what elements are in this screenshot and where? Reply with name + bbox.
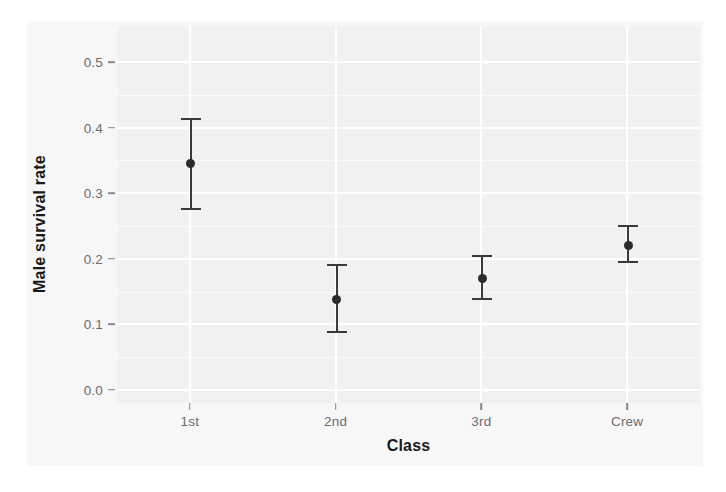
gridline-minor-horizontal [117, 160, 700, 161]
x-tick-label: 1st [181, 414, 200, 429]
error-bar-cap-lower [618, 261, 638, 263]
y-tick-label: 0.4 [84, 120, 103, 135]
error-bar-cap-upper [618, 225, 638, 227]
x-tick-mark [626, 403, 628, 410]
gridline-major-horizontal [117, 323, 700, 325]
y-tick-label: 0.3 [84, 186, 103, 201]
gridline-major-vertical [335, 26, 337, 403]
x-axis-title: Class [117, 437, 700, 455]
y-tick-mark [108, 192, 115, 194]
y-tick-mark [108, 61, 115, 63]
y-axis-title: Male survival rate [31, 124, 49, 324]
y-tick-mark [108, 258, 115, 260]
gridline-minor-horizontal [117, 357, 700, 358]
error-bar-cap-lower [181, 208, 201, 210]
gridline-major-vertical [626, 26, 628, 403]
data-point[interactable] [478, 274, 487, 283]
gridline-minor-horizontal [117, 292, 700, 293]
x-tick-mark [335, 403, 337, 410]
x-tick-label: Crew [611, 414, 643, 429]
x-tick-label: 3rd [471, 414, 491, 429]
gridline-major-vertical [189, 26, 191, 403]
error-bar-cap-upper [327, 264, 347, 266]
data-point[interactable] [186, 159, 195, 168]
gridline-major-vertical [480, 26, 482, 403]
x-tick-label: 2nd [324, 414, 347, 429]
y-tick-label: 0.5 [84, 55, 103, 70]
error-bar-cap-lower [327, 331, 347, 333]
error-bar-cap-lower [472, 298, 492, 300]
gridline-major-horizontal [117, 127, 700, 129]
error-bar-cap-upper [472, 255, 492, 257]
y-tick-mark [108, 127, 115, 129]
gridline-major-horizontal [117, 258, 700, 260]
y-tick-label: 0.0 [84, 382, 103, 397]
x-tick-mark [481, 403, 483, 410]
chart-figure: Male survival rate 0.00.10.20.30.40.5 1s… [0, 0, 726, 492]
error-bar-cap-upper [181, 118, 201, 120]
y-tick-mark [108, 324, 115, 326]
data-point[interactable] [332, 295, 341, 304]
gridline-minor-horizontal [117, 95, 700, 96]
gridline-major-horizontal [117, 192, 700, 194]
gridline-minor-horizontal [117, 226, 700, 227]
plot-panel [117, 26, 700, 403]
gridline-major-horizontal [117, 61, 700, 63]
y-tick-label: 0.2 [84, 251, 103, 266]
x-tick-mark [189, 403, 191, 410]
gridline-major-horizontal [117, 389, 700, 391]
y-tick-mark [108, 389, 115, 391]
y-tick-label: 0.1 [84, 317, 103, 332]
data-point[interactable] [624, 241, 633, 250]
